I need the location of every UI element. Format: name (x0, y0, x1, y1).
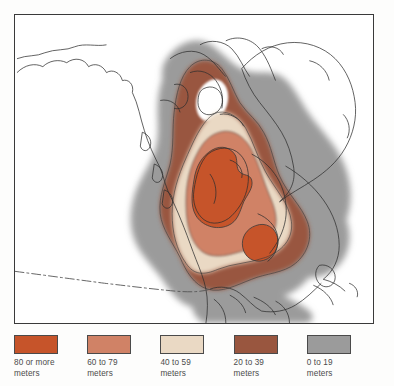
legend-item-0-to-19: 0 to 19 meters (307, 335, 380, 381)
legend-swatch-80-or-more (14, 335, 58, 354)
map-frame (14, 14, 374, 324)
legend-label-60-to-79: 60 to 79 meters (87, 358, 160, 379)
legend-item-20-to-39: 20 to 39 meters (234, 335, 307, 381)
legend-label-20-to-39: 20 to 39 meters (234, 358, 307, 379)
legend-swatch-0-to-19 (307, 335, 351, 354)
uplift-map (15, 15, 373, 323)
map-legend: 80 or more meters 60 to 79 meters 40 to … (14, 335, 380, 381)
legend-label-0-to-19: 0 to 19 meters (307, 358, 380, 379)
legend-item-60-to-79: 60 to 79 meters (87, 335, 160, 381)
legend-swatch-40-to-59 (160, 335, 204, 354)
legend-label-80-or-more: 80 or more meters (14, 358, 87, 379)
legend-swatch-60-to-79 (87, 335, 131, 354)
legend-item-80-or-more: 80 or more meters (14, 335, 87, 381)
legend-label-40-to-59: 40 to 59 meters (160, 358, 233, 379)
legend-swatch-20-to-39 (234, 335, 278, 354)
legend-item-40-to-59: 40 to 59 meters (160, 335, 233, 381)
